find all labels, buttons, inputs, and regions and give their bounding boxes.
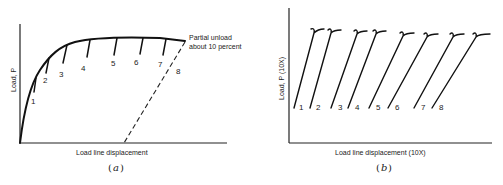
unload-label-5: 5 xyxy=(111,59,116,68)
figure: 1 2 3 4 5 6 7 8 Partial unload about 10 … xyxy=(0,0,503,185)
panel-b-caption-close: ) xyxy=(388,162,392,173)
panel-b-label-5: 5 xyxy=(376,103,381,112)
unload-tick-6 xyxy=(140,38,143,54)
unload-label-3: 3 xyxy=(59,70,64,79)
panel-b-x-label: Load line displacement (10X) xyxy=(335,149,426,157)
panel-b-label-6: 6 xyxy=(395,103,400,112)
panel-a: 1 2 3 4 5 6 7 8 Partial unload about 10 … xyxy=(10,24,242,173)
annotation-line-1: Partial unload xyxy=(189,34,232,41)
annotation-line-2: about 10 percent xyxy=(189,43,242,51)
panel-b-line-6 xyxy=(388,33,438,108)
panel-b-line-5 xyxy=(369,32,414,108)
panel-b-label-2: 2 xyxy=(316,103,321,112)
panel-b-y-label: Load, P (10X) xyxy=(278,57,286,100)
panel-b-caption-open: ( xyxy=(376,162,380,173)
unload-label-2: 2 xyxy=(43,76,48,85)
panel-b-label-4: 4 xyxy=(355,103,360,112)
panel-b-label-1: 1 xyxy=(299,103,304,112)
unload-tick-7 xyxy=(163,39,166,55)
panel-b-label-7: 7 xyxy=(421,103,426,112)
unload-tick-3 xyxy=(63,45,67,63)
panel-a-y-label: Load, P xyxy=(10,68,17,92)
unload-tick-5 xyxy=(114,38,117,55)
panel-a-caption: a xyxy=(113,162,119,173)
panel-a-caption-open: ( xyxy=(108,162,112,173)
panel-b-line-1 xyxy=(294,29,324,108)
panel-b-label-8: 8 xyxy=(439,103,444,112)
unload-label-1: 1 xyxy=(31,97,36,106)
unload-label-8: 8 xyxy=(176,67,181,76)
panel-b: 1 2 3 4 5 6 7 8 Load, P (10X) Load line … xyxy=(278,8,492,173)
panel-a-x-label: Load line displacement xyxy=(76,149,148,157)
unload-label-4: 4 xyxy=(81,64,86,73)
unload-label-7: 7 xyxy=(158,60,163,69)
panel-b-line-8 xyxy=(432,33,490,108)
panel-a-caption-close: ) xyxy=(120,162,124,173)
unload-tick-4 xyxy=(87,40,90,57)
panel-b-label-3: 3 xyxy=(338,103,343,112)
unload-label-6: 6 xyxy=(134,58,139,67)
panel-b-caption: b xyxy=(381,162,387,173)
panel-b-line-2 xyxy=(310,29,341,108)
panel-a-load-curve xyxy=(20,37,185,143)
panel-b-line-3 xyxy=(331,30,367,108)
